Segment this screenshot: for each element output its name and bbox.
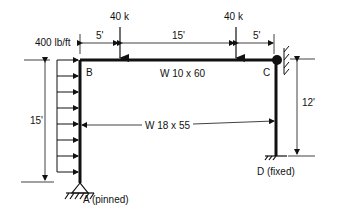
node-b-label: B: [86, 67, 93, 78]
distributed-load: [57, 60, 78, 172]
span-left-label: 5': [96, 30, 104, 41]
beam-section-label: W 10 x 60: [160, 68, 205, 79]
point-load-2-label: 40 k: [224, 11, 244, 22]
point-load-1-label: 40 k: [110, 11, 130, 22]
joint-c-icon: [272, 55, 282, 65]
distributed-load-label: 400 lb/ft: [35, 37, 71, 48]
node-c-label: C: [263, 67, 270, 78]
span-right-label: 5': [253, 30, 261, 41]
portal-frame-diagram: 40 k 40 k 400 lb/ft 5' 15' 5' 15' 12' W …: [0, 0, 338, 213]
wall-hatch-icon: [284, 46, 289, 75]
node-a-label: A (pinned): [83, 194, 129, 205]
node-d-label: D (fixed): [257, 166, 295, 177]
left-height-label: 15': [30, 115, 43, 126]
span-middle-label: 15': [172, 30, 185, 41]
fixed-support-icon: [265, 156, 287, 160]
right-height-label: 12': [302, 97, 315, 108]
column-section-label: W 18 x 55: [145, 120, 190, 131]
